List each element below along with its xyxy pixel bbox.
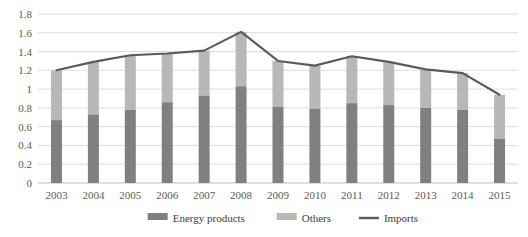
bar-energy-products-2011 bbox=[346, 103, 357, 183]
ytick-label: 1 bbox=[27, 83, 33, 95]
bar-others-2005 bbox=[125, 55, 136, 109]
bar-energy-products-2006 bbox=[162, 102, 173, 183]
xtick-label: 2014 bbox=[452, 189, 475, 201]
ytick-label: 0.8 bbox=[18, 102, 32, 114]
bar-energy-products-2004 bbox=[88, 114, 99, 183]
bars-group bbox=[51, 32, 505, 183]
bar-others-2009 bbox=[273, 61, 284, 107]
legend-label: Imports bbox=[384, 212, 418, 224]
bar-others-2008 bbox=[236, 32, 247, 86]
bar-energy-products-2013 bbox=[420, 108, 431, 183]
ytick-label: 0.6 bbox=[18, 121, 32, 133]
bar-others-2003 bbox=[51, 70, 62, 120]
ytick-label: 1.2 bbox=[18, 64, 32, 76]
legend-item: Others bbox=[277, 212, 331, 224]
bar-others-2011 bbox=[346, 56, 357, 103]
bar-energy-products-2012 bbox=[383, 105, 394, 183]
xtick-label: 2004 bbox=[82, 189, 105, 201]
ytick-label: 1.4 bbox=[18, 46, 32, 58]
xtick-label: 2012 bbox=[378, 189, 400, 201]
xtick-label: 2010 bbox=[304, 189, 327, 201]
chart-canvas: 00.20.40.60.811.21.41.61.8 2003200420052… bbox=[0, 0, 528, 237]
bar-others-2010 bbox=[309, 66, 320, 109]
ytick-label: 0.4 bbox=[18, 139, 32, 151]
bar-others-2004 bbox=[88, 62, 99, 115]
bar-others-2012 bbox=[383, 62, 394, 105]
xtick-labels-group: 2003200420052006200720082009201020112012… bbox=[45, 189, 511, 201]
legend-label: Energy products bbox=[173, 212, 245, 224]
bar-others-2007 bbox=[199, 51, 210, 96]
xtick-label: 2003 bbox=[45, 189, 68, 201]
bar-energy-products-2010 bbox=[309, 109, 320, 183]
ytick-label: 1.6 bbox=[18, 27, 32, 39]
ytick-label: 1.8 bbox=[18, 8, 32, 20]
legend-swatch-bar bbox=[148, 213, 168, 220]
xtick-label: 2015 bbox=[489, 189, 512, 201]
xtick-label: 2013 bbox=[415, 189, 438, 201]
ytick-label: 0 bbox=[27, 177, 33, 189]
bar-others-2014 bbox=[457, 73, 468, 110]
bar-energy-products-2008 bbox=[236, 86, 247, 183]
xtick-label: 2007 bbox=[193, 189, 216, 201]
bar-others-2013 bbox=[420, 69, 431, 107]
chart-container: 00.20.40.60.811.21.41.61.8 2003200420052… bbox=[0, 0, 528, 237]
bar-energy-products-2015 bbox=[494, 139, 505, 183]
xtick-label: 2006 bbox=[156, 189, 179, 201]
bar-energy-products-2009 bbox=[273, 107, 284, 183]
legend-swatch-bar bbox=[277, 213, 297, 220]
bar-energy-products-2014 bbox=[457, 110, 468, 183]
xtick-label: 2008 bbox=[230, 189, 253, 201]
bar-others-2015 bbox=[494, 95, 505, 139]
legend-item: Energy products bbox=[148, 212, 245, 224]
xtick-label: 2011 bbox=[341, 189, 363, 201]
legend-label: Others bbox=[302, 212, 331, 224]
xtick-label: 2005 bbox=[119, 189, 142, 201]
bar-energy-products-2003 bbox=[51, 120, 62, 183]
bar-energy-products-2007 bbox=[199, 96, 210, 183]
chart-legend: Energy productsOthersImports bbox=[148, 212, 418, 224]
ytick-label: 0.2 bbox=[18, 158, 32, 170]
xtick-label: 2009 bbox=[267, 189, 290, 201]
ytick-labels-group: 00.20.40.60.811.21.41.61.8 bbox=[18, 8, 32, 189]
legend-item: Imports bbox=[359, 212, 418, 224]
bar-others-2006 bbox=[162, 53, 173, 102]
bar-energy-products-2005 bbox=[125, 110, 136, 183]
